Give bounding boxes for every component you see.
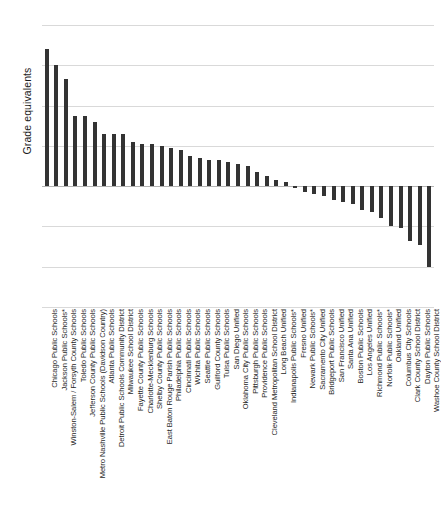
x-axis-label: Wichita Public Schools [193, 309, 202, 385]
bar [408, 186, 412, 240]
x-axis-label: Clark County School District [413, 309, 422, 402]
bar [236, 164, 240, 186]
y-axis-title: Grade equivalents [21, 31, 33, 191]
bar [121, 134, 125, 186]
x-axis-label: Guilford County Schools [213, 309, 222, 390]
bar [150, 144, 154, 186]
bar [45, 49, 49, 186]
x-axis-label: Pittsburgh Public Schools [251, 309, 260, 394]
x-axis-label: Cleveland Metropolitan School District [270, 309, 279, 435]
bar [284, 182, 288, 186]
x-axis-label: Winston-Salem / Forsyth County Schools [69, 309, 78, 446]
bar [93, 122, 97, 186]
bar [160, 146, 164, 186]
bar [418, 186, 422, 244]
x-axis-label: Oakland Unified [394, 309, 403, 362]
bar [131, 142, 135, 186]
x-axis-label: Milwaukee School District [126, 309, 135, 394]
x-axis-label: Jefferson County Public Schools [88, 309, 97, 417]
x-axis-label: Shelby County Public Schools [155, 309, 164, 409]
bar [351, 186, 355, 204]
bar [312, 186, 316, 194]
bar-series [42, 25, 434, 307]
x-axis-label: Fayette County Public Schools [136, 309, 145, 411]
x-axis-label: Long Beach Unified [279, 309, 288, 374]
x-axis-label: East Baton Rouge Parish Public Schools [165, 309, 174, 444]
x-axis-label: Charlotte-Mecklenburg Schools [146, 309, 155, 414]
bar [54, 65, 58, 186]
bar [399, 186, 403, 228]
bar [102, 134, 106, 186]
bar [293, 186, 297, 188]
bar [198, 158, 202, 186]
x-axis-label: Providence Public Schools [260, 309, 269, 398]
bar [179, 150, 183, 186]
bar [217, 160, 221, 186]
x-axis-label: Oklahoma City Public Schools [241, 309, 250, 409]
bar [341, 186, 345, 202]
bar [64, 79, 68, 186]
bar [140, 144, 144, 186]
bar [255, 172, 259, 186]
bar [73, 116, 77, 187]
x-axis-label: Columbus City Schools [404, 309, 413, 386]
bar [83, 116, 87, 187]
bar [370, 186, 374, 212]
bar [389, 186, 393, 226]
x-axis-label: Newark Public Schools* [308, 309, 317, 389]
bar [332, 186, 336, 200]
x-axis-label: Santa Ana Unified [346, 309, 355, 369]
bar [360, 186, 364, 210]
bar [226, 162, 230, 186]
bar [379, 186, 383, 218]
bar [112, 134, 116, 186]
x-axis-label: Fresno Unified [299, 309, 308, 358]
bar [303, 186, 307, 192]
x-axis-label: Los Angeles Unified [365, 309, 374, 375]
x-axis-label: Washoe County School District [432, 309, 441, 412]
plot-area: 0.80.60.40.20–0.2–0.4–0.6 [42, 25, 434, 307]
x-axis-label: Bridgeport Public Schools [327, 309, 336, 395]
x-axis-label: Tulsa Public Schools [222, 309, 231, 378]
bar [169, 148, 173, 186]
bar [265, 176, 269, 186]
x-axis-label: Richmond Public Schools* [375, 309, 384, 397]
x-axis-label: Norfolk Public Schools* [385, 309, 394, 387]
x-axis-label: Boston Public Schools [356, 309, 365, 384]
x-axis-label: Chicago Public Schools [50, 309, 59, 388]
x-axis-label: Toledo Public Schools [79, 309, 88, 382]
x-axis-label: Sacramento City Unified [318, 309, 327, 390]
bar [246, 166, 250, 186]
x-axis-label: Philadelphia Public Schools [174, 309, 183, 401]
x-axis-label: Cincinnati Public Schools [184, 309, 193, 393]
bar [207, 160, 211, 186]
x-axis-labels: Chicago Public SchoolsJackson Public Sch… [42, 309, 434, 515]
x-axis-label: Atlanta Public Schools [107, 309, 116, 383]
gridline-neg0_6 [42, 307, 434, 308]
x-axis-label: Jackson Public Schools* [60, 309, 69, 391]
x-axis-label: San Francisco Unified [337, 309, 346, 382]
x-axis-label: Dayton Public Schools [423, 309, 432, 384]
x-axis-label: Indianapolis Public Schools* [289, 309, 298, 403]
bar [188, 156, 192, 186]
x-axis-label: San Diego Unified [232, 309, 241, 369]
bar [274, 180, 278, 186]
x-axis-label: Detroit Public Schools Community Distric… [117, 309, 126, 447]
bar [427, 186, 431, 267]
x-axis-label: Metro Nashville Public Schools (Davidson… [98, 309, 107, 478]
x-axis-label: Seattle Public Schools [203, 309, 212, 383]
bar [322, 186, 326, 196]
